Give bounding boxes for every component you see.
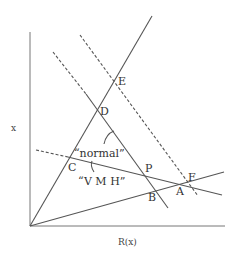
point-label-p: P (145, 162, 153, 175)
point-label-c: C (68, 161, 76, 174)
point-label-d: D (100, 105, 109, 118)
economics-diagram: E D C P B A F “normal” “V M H” x R(x) (0, 0, 236, 256)
x-axis-label: R(x) (118, 237, 137, 247)
point-label-a: A (175, 185, 185, 198)
vmh-line-dashed (36, 150, 68, 157)
point-label-f: F (188, 171, 196, 184)
normal-pointer-arc (104, 131, 114, 144)
steep-ray-line (30, 16, 152, 226)
vmh-annotation: “V M H” (78, 175, 125, 188)
normal-annotation: “normal” (74, 147, 125, 160)
point-label-b: B (148, 191, 156, 204)
point-label-e: E (118, 75, 126, 88)
normal-line-dashed (53, 52, 86, 94)
y-axis-label: x (11, 123, 16, 133)
shifted-line-dashed (80, 35, 198, 196)
